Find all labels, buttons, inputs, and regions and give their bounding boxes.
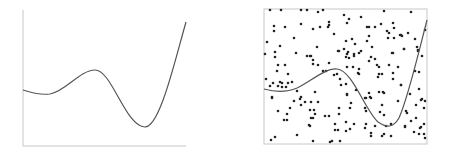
sample-point (293, 37, 296, 40)
sample-point (328, 21, 331, 24)
sample-point (337, 129, 340, 132)
sample-point (348, 18, 351, 21)
sample-point (316, 46, 319, 49)
sample-point (387, 37, 390, 40)
sample-point (279, 45, 282, 48)
sample-point (333, 74, 336, 77)
sample-point (418, 71, 421, 74)
sample-point (291, 81, 294, 84)
sample-point (369, 96, 372, 99)
sample-point (346, 22, 349, 25)
sample-point (393, 37, 396, 40)
sample-point (415, 117, 418, 120)
sample-point (414, 38, 417, 41)
sample-point (346, 94, 349, 97)
sample-point (371, 46, 374, 49)
sample-point (354, 43, 357, 46)
sample-point (423, 123, 426, 126)
sample-point (338, 107, 341, 110)
sample-point (353, 55, 356, 58)
sample-point (404, 126, 407, 129)
sample-point (284, 26, 287, 29)
sample-point (358, 52, 361, 55)
sample-point (285, 86, 288, 89)
sample-point (300, 9, 303, 12)
sample-point (277, 85, 280, 88)
sample-point (343, 48, 346, 51)
sample-region-box (264, 9, 427, 144)
sample-point (360, 50, 363, 53)
sample-point (345, 56, 348, 59)
sample-point (383, 133, 386, 136)
sample-point (392, 72, 395, 75)
sample-point (264, 53, 267, 56)
sample-point (266, 41, 269, 44)
sample-point (370, 132, 373, 135)
sample-point (365, 123, 368, 126)
sample-point (327, 26, 330, 29)
sample-point (406, 112, 409, 115)
sample-point (364, 97, 367, 100)
sample-point (381, 135, 384, 138)
sample-point (345, 130, 348, 133)
figure (0, 0, 451, 153)
sample-point (374, 26, 377, 29)
sample-point (289, 107, 292, 110)
sample-point (407, 32, 410, 35)
sample-point (366, 40, 369, 43)
sample-point (378, 66, 381, 69)
function-curve (23, 22, 186, 127)
sample-point (331, 140, 334, 143)
sample-point (276, 70, 279, 73)
sample-point (273, 25, 276, 28)
left-panel (23, 10, 186, 146)
sample-point (277, 110, 280, 113)
sample-point (390, 135, 393, 138)
sample-point (346, 66, 349, 69)
sample-point (286, 119, 289, 122)
sample-point (314, 91, 317, 94)
sample-point (368, 35, 371, 38)
sample-point (265, 78, 268, 81)
sample-point (345, 83, 348, 86)
sample-point (312, 140, 315, 143)
sample-point (383, 92, 386, 95)
sample-point (281, 82, 284, 85)
sample-point (309, 109, 312, 112)
sample-point (296, 134, 299, 137)
sample-point (339, 140, 342, 143)
sample-point (348, 57, 351, 60)
sample-point (310, 55, 313, 58)
sample-point (370, 56, 373, 59)
sample-point (287, 73, 290, 76)
sample-point (340, 84, 343, 87)
sample-points (264, 9, 427, 144)
sample-point (272, 82, 275, 85)
sample-point (312, 63, 315, 66)
sample-point (283, 119, 286, 122)
sample-point (284, 64, 287, 67)
sample-point (351, 38, 354, 41)
sample-point (280, 9, 283, 12)
sample-point (364, 107, 367, 110)
sample-point (409, 93, 412, 96)
sample-point (333, 33, 336, 36)
sample-point (364, 127, 367, 130)
sample-point (312, 28, 315, 31)
sample-point (310, 101, 313, 104)
sample-point (293, 100, 296, 103)
sample-point (269, 9, 272, 12)
sample-point (376, 64, 379, 67)
sample-point (300, 23, 303, 26)
sample-point (378, 73, 381, 76)
sample-point (388, 32, 391, 35)
sample-point (423, 133, 426, 136)
sample-point (393, 27, 396, 30)
sample-point (400, 34, 403, 37)
sample-point (368, 92, 371, 95)
sample-point (358, 73, 361, 76)
sample-point (397, 66, 400, 69)
sample-point (337, 50, 340, 53)
sample-point (392, 22, 395, 25)
sample-point (299, 98, 302, 101)
